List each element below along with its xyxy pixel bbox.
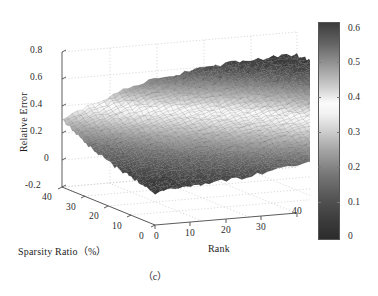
colorbar-tickmark-1r bbox=[337, 62, 340, 63]
z-tick-marks bbox=[62, 50, 66, 187]
figure-panel: 0.8 0.6 0.4 0.2 0 -0.2 Relative Error 40… bbox=[0, 0, 378, 296]
z-tick-0: 0.8 bbox=[30, 45, 42, 55]
y-tick-4: 40 bbox=[292, 206, 302, 216]
z-tick-1: 0.6 bbox=[30, 72, 42, 82]
axis-lines bbox=[62, 52, 297, 225]
colorbar-tickmark-5r bbox=[337, 202, 340, 203]
y-tick-2: 20 bbox=[221, 225, 231, 235]
x-tick-2: 20 bbox=[89, 211, 99, 221]
colorbar-tick-0: 0.6 bbox=[348, 23, 360, 33]
x-tick-1: 30 bbox=[66, 202, 76, 212]
colorbar-tickmark-3 bbox=[318, 132, 321, 133]
colorbar-tickmark-4r bbox=[337, 167, 340, 168]
colorbar-tickmark-1 bbox=[318, 62, 321, 63]
x-tick-0: 40 bbox=[42, 192, 52, 202]
z-tick-3: 0.2 bbox=[30, 126, 42, 136]
colorbar-tickmark-2r bbox=[337, 97, 340, 98]
colorbar-tick-3: 0.3 bbox=[348, 127, 360, 137]
colorbar-tick-4: 0.2 bbox=[348, 162, 360, 172]
z-axis-title: Relative Error bbox=[18, 92, 29, 152]
x-axis-title: Sparsity Ratio（%） bbox=[18, 243, 107, 258]
colorbar-tickmark-5 bbox=[318, 202, 321, 203]
y-tick-1: 10 bbox=[185, 228, 195, 238]
figure-caption: （c） bbox=[0, 268, 310, 283]
y-tick-0: 0 bbox=[154, 231, 159, 241]
colorbar-tick-1: 0.5 bbox=[348, 57, 360, 67]
z-tick-4: 0 bbox=[44, 153, 49, 163]
colorbar-tickmark-3r bbox=[337, 132, 340, 133]
colorbar-tick-6: 0 bbox=[348, 231, 353, 241]
x-tick-3: 10 bbox=[112, 221, 122, 231]
z-tick-2: 0.4 bbox=[30, 99, 42, 109]
x-tick-4: 0 bbox=[139, 231, 144, 241]
colorbar: 0.6 0.5 0.4 0.3 0.2 0.1 0 bbox=[318, 22, 340, 240]
y-axis-title: Rank bbox=[208, 243, 230, 254]
grid-lines bbox=[62, 32, 310, 225]
colorbar-tick-2: 0.4 bbox=[348, 92, 360, 102]
colorbar-tickmark-4 bbox=[318, 167, 321, 168]
colorbar-tickmark-2 bbox=[318, 97, 321, 98]
y-tick-3: 30 bbox=[256, 222, 266, 232]
colorbar-gradient bbox=[318, 22, 340, 240]
plot-area: 0.8 0.6 0.4 0.2 0 -0.2 Relative Error 40… bbox=[0, 0, 310, 270]
z-tick-5: -0.2 bbox=[25, 180, 41, 190]
colorbar-tick-5: 0.1 bbox=[348, 197, 360, 207]
